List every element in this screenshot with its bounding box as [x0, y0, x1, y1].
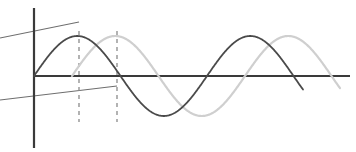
sine-wave-figure [0, 0, 356, 152]
figure-canvas [0, 0, 356, 152]
